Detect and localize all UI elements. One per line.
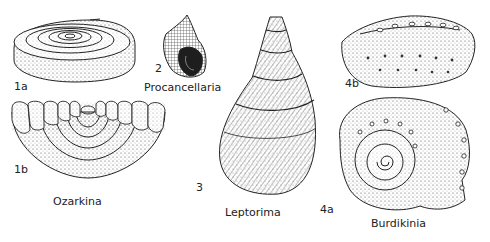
figure-label-3: 3 — [196, 182, 203, 194]
genus-label-procancellaria: Procancellaria — [144, 82, 221, 94]
genus-label-burdikinia: Burdikinia — [371, 218, 426, 230]
figure-label-4a: 4a — [320, 204, 334, 216]
figure-label-2: 2 — [155, 63, 162, 75]
figure-label-1b: 1b — [14, 164, 28, 176]
ozarkina-1b-illustration — [12, 101, 165, 178]
leptorima-illustration — [219, 17, 316, 194]
genus-label-ozarkina: Ozarkina — [53, 196, 102, 208]
burdikinia-4a-illustration — [340, 98, 470, 210]
procancellaria-illustration — [164, 15, 206, 77]
burdikinia-4b-illustration — [342, 16, 475, 88]
figure-label-1a: 1a — [14, 81, 28, 93]
ozarkina-1a-illustration — [14, 19, 135, 82]
genus-label-leptorima: Leptorima — [225, 207, 281, 219]
figure-label-4b: 4b — [345, 78, 359, 90]
fossil-plate: 1a 1b 2 3 4a 4b Ozarkina Procancellaria … — [0, 0, 490, 242]
